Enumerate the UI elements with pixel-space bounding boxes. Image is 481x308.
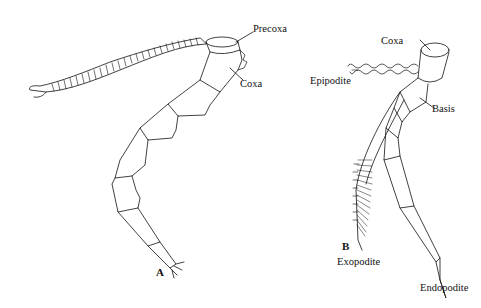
label-precoxa: Precoxa <box>253 24 287 35</box>
label-endopodite: Endopodite <box>420 283 468 294</box>
flagellum-annuli <box>52 38 198 91</box>
limb-diagram <box>0 0 481 308</box>
basis-segment-b <box>400 78 428 112</box>
panel-letter-b: B <box>342 241 349 252</box>
label-coxa-a: Coxa <box>240 79 262 90</box>
label-exopodite: Exopodite <box>337 257 380 268</box>
basis-segment-a <box>168 80 220 116</box>
label-basis: Basis <box>432 104 455 115</box>
epipodite <box>348 64 418 74</box>
precoxa-segment <box>206 37 238 47</box>
panel-letter-a: A <box>156 267 164 278</box>
label-coxa-b: Coxa <box>381 36 403 47</box>
limb-a <box>29 32 253 278</box>
label-epipodite: Epipodite <box>310 76 351 87</box>
coxa-segment-a <box>200 50 242 92</box>
